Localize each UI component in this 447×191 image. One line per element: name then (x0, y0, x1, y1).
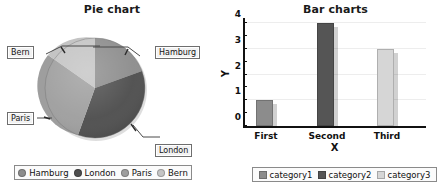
pie-callout-hamburg: Hamburg (155, 46, 200, 59)
legend-swatch-icon (74, 169, 82, 177)
y-tick-minor (244, 35, 247, 36)
y-tick-label: 0 (235, 113, 241, 122)
y-tick (243, 99, 247, 100)
y-tick-label: 3 (235, 35, 241, 44)
x-axis-title: X (243, 142, 426, 153)
y-tick-minor (244, 112, 247, 113)
pie-callout-london: London (155, 144, 192, 157)
bar-chart-title: Bar charts (224, 3, 447, 16)
y-tick-label: 2 (235, 61, 241, 70)
pie-callout-bern: Bern (7, 46, 34, 59)
legend-item-category3: category3 (377, 170, 431, 180)
y-axis-title: Y (220, 70, 231, 77)
legend-label: category2 (329, 170, 372, 180)
legend-swatch-icon (318, 171, 326, 179)
pie-graphic (0, 14, 224, 154)
y-tick-minor (244, 86, 247, 87)
legend-label: London (85, 168, 116, 178)
legend-label: Paris (132, 168, 152, 178)
bar-shadow (334, 27, 338, 126)
legend-swatch-icon (377, 171, 385, 179)
x-tick-label-second: Second (309, 131, 346, 141)
bar-shadow (273, 104, 277, 126)
x-tick-label-third: Third (374, 131, 401, 141)
legend-item-bern: Bern (157, 168, 188, 178)
legend-label: Hamburg (29, 168, 68, 178)
y-tick-label: 4 (235, 10, 241, 19)
bar-chart-plot: 0 1 2 3 4 First Second Third (243, 18, 426, 128)
y-tick (243, 22, 247, 23)
legend-item-hamburg: Hamburg (18, 168, 68, 178)
legend-swatch-icon (259, 171, 267, 179)
legend-swatch-icon (18, 169, 26, 177)
pie-chart-legend: Hamburg London Paris Bern (14, 165, 192, 180)
pie-chart-panel: Pie chart (0, 0, 224, 191)
legend-label: category3 (388, 170, 431, 180)
y-tick-label: 1 (235, 87, 241, 96)
legend-label: Bern (168, 168, 188, 178)
y-tick (243, 48, 247, 49)
y-tick (243, 74, 247, 75)
bar-second-category2 (317, 23, 334, 126)
legend-swatch-icon (157, 169, 165, 177)
legend-item-category2: category2 (318, 170, 372, 180)
bar-first-category1 (256, 100, 273, 126)
legend-item-paris: Paris (121, 168, 152, 178)
pie-callout-paris: Paris (7, 112, 34, 125)
y-tick (243, 125, 247, 126)
gridline (245, 22, 426, 23)
x-tick-label-first: First (254, 131, 277, 141)
legend-swatch-icon (121, 169, 129, 177)
chart-figure: Pie chart (0, 0, 447, 191)
y-tick-minor (244, 61, 247, 62)
legend-item-london: London (74, 168, 116, 178)
bar-shadow (394, 53, 398, 126)
legend-label: category1 (270, 170, 313, 180)
legend-item-category1: category1 (259, 170, 313, 180)
bar-third-category3 (377, 49, 394, 126)
bar-chart-legend: category1 category2 category3 (252, 167, 437, 182)
pie-chart-plot: Bern Hamburg Paris London (0, 14, 224, 154)
